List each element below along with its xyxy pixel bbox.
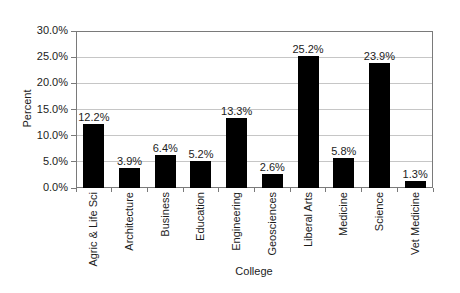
y-axis-tick (71, 135, 76, 136)
bar-value-label: 2.6% (247, 161, 297, 173)
bar-value-label: 13.3% (212, 105, 262, 117)
y-axis-tick-label: 10.0% (24, 129, 68, 142)
bar-chart: Percent College 0.0%5.0%10.0%15.0%20.0%2… (0, 0, 460, 293)
bar (155, 155, 176, 188)
y-axis-tick-label: 30.0% (24, 24, 68, 37)
bar (369, 63, 390, 188)
x-axis-tick (147, 188, 148, 192)
x-axis-category-label: Science (373, 192, 386, 277)
bar (83, 124, 104, 188)
bar-value-label: 23.9% (354, 50, 404, 62)
bar-value-label: 3.9% (105, 155, 155, 167)
bar (190, 161, 211, 188)
bar-value-label: 5.8% (319, 145, 369, 157)
x-axis-category-label: Vet Medicine (409, 192, 422, 277)
y-axis-tick-label: 25.0% (24, 50, 68, 63)
bar (333, 158, 354, 188)
x-axis-category-label: Medicine (337, 192, 350, 277)
bar-value-label: 12.2% (69, 111, 119, 123)
x-axis-category-label: Agric & Life Sci (87, 192, 100, 277)
bar-value-label: 5.2% (176, 148, 226, 160)
bar-value-label: 25.2% (283, 43, 333, 55)
y-axis-tick-label: 15.0% (24, 103, 68, 116)
x-axis-tick (111, 188, 112, 192)
bar (262, 174, 283, 188)
bar-value-label: 1.3% (390, 168, 440, 180)
x-axis-tick (183, 188, 184, 192)
y-axis-tick (71, 161, 76, 162)
bar (298, 56, 319, 188)
x-axis-tick (290, 188, 291, 192)
y-axis-tick-label: 5.0% (24, 155, 68, 168)
y-axis-tick-label: 20.0% (24, 76, 68, 89)
x-axis-tick (433, 188, 434, 192)
x-axis-category-label: Business (159, 192, 172, 277)
bar (405, 181, 426, 188)
x-axis-tick (218, 188, 219, 192)
y-axis-tick-label: 0.0% (24, 181, 68, 194)
x-axis-tick (397, 188, 398, 192)
y-axis-tick (71, 109, 76, 110)
x-axis-category-label: Architecture (123, 192, 136, 277)
y-axis-tick (71, 31, 76, 32)
x-axis-category-label: Geosciences (266, 192, 279, 277)
x-axis-category-label: Liberal Arts (302, 192, 315, 277)
y-axis-tick (71, 57, 76, 58)
x-axis-tick (361, 188, 362, 192)
x-axis-tick (76, 188, 77, 192)
x-axis-category-label: Education (194, 192, 207, 277)
x-axis-tick (254, 188, 255, 192)
bar (119, 168, 140, 188)
y-axis-tick (71, 83, 76, 84)
bar (226, 118, 247, 188)
x-axis-category-label: Engineering (230, 192, 243, 277)
x-axis-tick (325, 188, 326, 192)
